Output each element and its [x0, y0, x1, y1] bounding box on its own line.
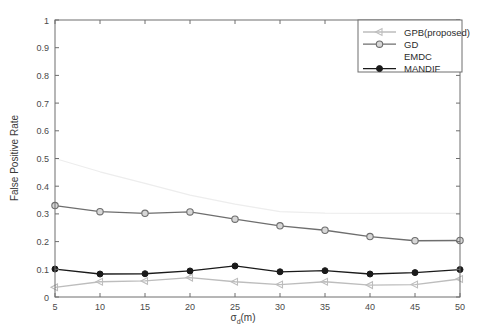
data-point: [232, 216, 238, 222]
data-point: [367, 233, 373, 239]
legend-item-label: MANDIF: [404, 63, 441, 74]
x-tick-label: 25: [230, 302, 240, 312]
y-axis-title: False Positive Rate: [9, 114, 20, 201]
data-point: [232, 263, 238, 269]
data-point: [277, 223, 283, 229]
data-point: [322, 227, 328, 233]
y-tick-label: 0.3: [36, 209, 49, 219]
y-tick-label: 0.5: [36, 154, 49, 164]
x-tick-label: 50: [455, 302, 465, 312]
y-tick-label: 0.4: [36, 182, 49, 192]
legend-sample-marker: [377, 66, 383, 72]
x-tick-labels: 5101520253035404550: [52, 302, 465, 312]
y-axis-title-text: False Positive Rate: [9, 114, 20, 201]
legend[interactable]: GPB(proposed)GDEMDCMANDIF: [358, 20, 470, 74]
y-tick-labels: 00.10.20.30.40.50.60.70.80.91: [36, 16, 49, 303]
legend-item-label: GPB(proposed): [404, 27, 470, 38]
x-axis-title: σd(m): [230, 312, 255, 325]
figure-canvas: 5101520253035404550 00.10.20.30.40.50.60…: [0, 0, 489, 334]
legend-item-label: EMDC: [404, 51, 432, 62]
legend-item-emdc[interactable]: EMDC: [404, 51, 432, 62]
data-point: [142, 271, 148, 277]
x-tick-label: 10: [95, 302, 105, 312]
data-point: [412, 238, 418, 244]
x-tick-label: 35: [320, 302, 330, 312]
chart-plot: 5101520253035404550 00.10.20.30.40.50.60…: [0, 0, 489, 334]
x-tick-label: 30: [275, 302, 285, 312]
data-point: [412, 270, 418, 276]
x-tick-label: 15: [140, 302, 150, 312]
y-tick-label: 0.8: [36, 71, 49, 81]
y-tick-label: 0.2: [36, 237, 49, 247]
x-tick-label: 40: [365, 302, 375, 312]
y-tick-label: 0.7: [36, 99, 49, 109]
data-point: [187, 268, 193, 274]
data-point: [367, 271, 373, 277]
x-tick-label: 45: [410, 302, 420, 312]
data-point: [277, 269, 283, 275]
y-tick-label: 0: [44, 293, 49, 303]
y-tick-label: 0.9: [36, 43, 49, 53]
y-tick-label: 0.6: [36, 126, 49, 136]
svg-text:σd(m): σd(m): [230, 312, 255, 325]
legend-item-label: GD: [404, 39, 418, 50]
data-point: [142, 210, 148, 216]
data-point: [97, 271, 103, 277]
y-tick-label: 1: [44, 16, 49, 26]
x-tick-label: 20: [185, 302, 195, 312]
x-tick-label: 5: [52, 302, 57, 312]
data-point: [187, 209, 193, 215]
y-tick-label: 0.1: [36, 265, 49, 275]
data-point: [322, 268, 328, 274]
x-axis-title-unit: (m): [241, 312, 256, 323]
data-point: [97, 208, 103, 214]
legend-sample-marker: [376, 41, 382, 47]
